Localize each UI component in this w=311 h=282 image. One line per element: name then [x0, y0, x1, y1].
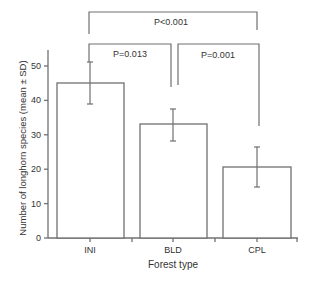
- y-tick-label: 20: [31, 164, 41, 174]
- bracket-labels: P<0.001 P=0.013 P=0.001: [113, 17, 235, 60]
- bracket-label-bld-cpl: P=0.001: [201, 50, 235, 60]
- y-tick-label: 30: [31, 130, 41, 140]
- bracket-label-ini-bld: P=0.013: [113, 49, 147, 59]
- x-tick-label-cpl: CPL: [248, 245, 266, 255]
- bar-ini: [57, 83, 124, 238]
- y-tick-label: 50: [31, 61, 41, 71]
- y-axis-title: Number of longhorn species (mean ± SD): [17, 60, 28, 235]
- y-tick-label: 10: [31, 199, 41, 209]
- x-tick-labels: INI BLD CPL: [84, 245, 266, 255]
- y-tick-label: 40: [31, 95, 41, 105]
- y-axis: [44, 50, 48, 238]
- bars: [57, 83, 291, 238]
- y-tick-label: 0: [36, 233, 41, 243]
- bracket-label-ini-cpl: P<0.001: [154, 17, 188, 27]
- y-tick-labels: 0 10 20 30 40 50: [31, 61, 41, 243]
- x-tick-label-bld: BLD: [164, 245, 182, 255]
- bar-chart: 0 10 20 30 40 50 Number of longhorn spec…: [0, 0, 311, 282]
- x-tick-label-ini: INI: [84, 245, 96, 255]
- x-axis-title: Forest type: [148, 259, 198, 270]
